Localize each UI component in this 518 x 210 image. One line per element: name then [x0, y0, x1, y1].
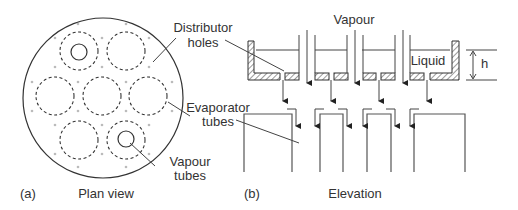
label-vapour-tubes-line2: tubes: [174, 168, 206, 183]
leader-line-evaporator-tubes-elevation: [236, 120, 299, 143]
distributor-diagram: Distributor holes Evaporator tubes Vapou…: [0, 0, 518, 210]
evaporator-tube-section: [244, 114, 292, 172]
label-evaporator-tubes-line2: tubes: [202, 114, 234, 129]
plan-view: Distributor holes Evaporator tubes Vapou…: [20, 18, 250, 201]
evaporator-tube-section: [320, 114, 343, 172]
vapour-tube: [71, 44, 87, 60]
tray-floor-segment: [363, 73, 376, 80]
panel-label-a: (a): [20, 186, 36, 201]
tray-floor-segment: [410, 73, 424, 80]
label-liquid: Liquid: [411, 53, 446, 68]
evaporator-tube: [107, 32, 145, 70]
label-height-h: h: [481, 56, 488, 71]
tray-floor-segment: [334, 73, 348, 80]
label-vapour-tubes-line1: Vapour: [170, 154, 212, 169]
evaporator-tube: [107, 121, 145, 159]
caption-elevation: Elevation: [328, 186, 381, 201]
evaporator-tube: [129, 77, 167, 115]
evaporator-tube: [83, 77, 121, 115]
label-evaporator-tubes-line1: Evaporator: [186, 100, 250, 115]
evaporator-tube: [36, 77, 74, 115]
tray-floor-segment: [381, 73, 395, 80]
evaporator-tube: [60, 121, 98, 159]
distributor-holes: [31, 23, 174, 169]
label-vapour: Vapour: [334, 12, 376, 27]
evaporator-tube: [60, 32, 98, 70]
label-distributor-holes-line2: holes: [187, 35, 219, 50]
panel-label-b: (b): [244, 186, 260, 201]
label-distributor-holes-line1: Distributor: [173, 20, 233, 35]
caption-plan-view: Plan view: [78, 186, 134, 201]
leader-line-vapour-tubes: [130, 143, 155, 166]
tray-floor-segment: [285, 73, 299, 80]
evaporator-tube-section: [414, 114, 465, 172]
evaporator-tube-section: [367, 114, 391, 172]
tray-floor-segment: [315, 73, 329, 80]
elevation-view: Vapour Liquid: [225, 12, 497, 201]
